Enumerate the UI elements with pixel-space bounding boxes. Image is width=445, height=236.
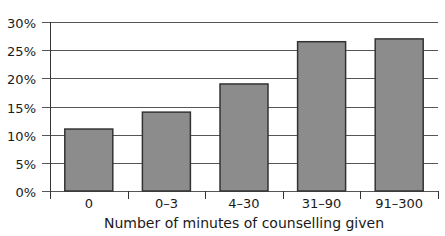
- bar: [142, 112, 190, 191]
- y-tick-label: 15%: [7, 101, 36, 116]
- y-tick-label: 0%: [15, 185, 36, 200]
- y-tick-label: 20%: [7, 72, 36, 87]
- y-tick-label: 10%: [7, 129, 36, 144]
- y-tick-label: 25%: [7, 44, 36, 59]
- x-tick-label: 0–3: [155, 196, 178, 211]
- bar: [65, 129, 113, 191]
- x-tick-label: 91–300: [375, 196, 423, 211]
- bar: [375, 39, 423, 191]
- x-tick-label: 0: [85, 196, 93, 211]
- x-axis-label: Number of minutes of counselling given: [104, 215, 384, 231]
- bars: [65, 39, 423, 191]
- x-tick-label: 4–30: [228, 196, 259, 211]
- bar: [298, 42, 346, 191]
- x-tick-label: 31–90: [302, 196, 342, 211]
- x-axis-ticks: 00–34–3031–9091–300: [51, 191, 439, 211]
- y-axis-ticks: 0%5%10%15%20%25%30%: [7, 16, 36, 200]
- bar: [220, 84, 268, 191]
- y-tick-label: 5%: [15, 157, 36, 172]
- y-tick-label: 30%: [7, 16, 36, 31]
- bar-chart: 0%5%10%15%20%25%30% 00–34–3031–9091–300 …: [0, 0, 445, 236]
